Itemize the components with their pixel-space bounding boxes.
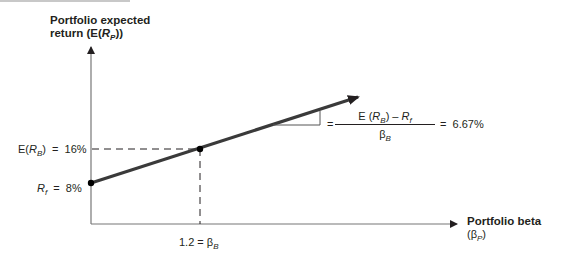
equals-sign: = <box>327 118 333 130</box>
sml-line <box>91 97 358 183</box>
rf-label: Rf = 8% <box>37 182 82 194</box>
y-axis-title: Portfolio expected return (E(RP)) <box>50 14 150 40</box>
fraction-numerator: E (RB) – Rf <box>335 110 435 125</box>
rf-point <box>88 180 94 186</box>
slope-fraction: E (RB) – Rf βB <box>335 110 435 140</box>
fraction-denominator: βB <box>335 125 435 140</box>
slope-result: = 6.67% <box>440 118 484 130</box>
x-axis-title: Portfolio beta (βP) <box>467 215 541 241</box>
b-point <box>197 146 203 152</box>
beta-b-label: 1.2 = βB <box>179 236 219 248</box>
erb-label: E(RB) = 16% <box>18 143 87 155</box>
